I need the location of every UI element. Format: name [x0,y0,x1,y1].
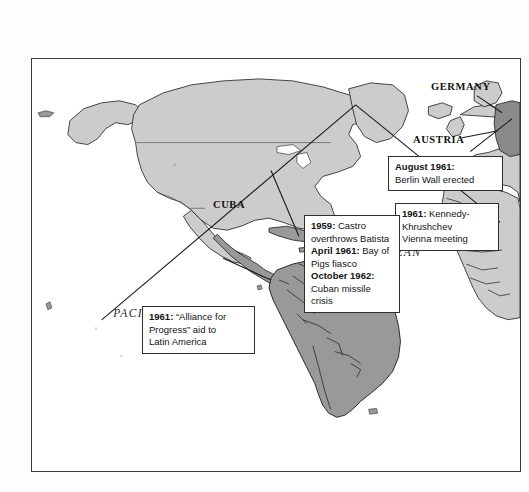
callout-cuba-date-2: April 1961: [311,245,360,256]
aleutian-chain [38,111,54,117]
map-frame: CUBA GERMANY AUSTRIA ATLANTIC OCEAN PACI… [31,58,521,472]
eastern-europe-shape [494,101,520,157]
callout-cuba-line-1-rest: Castro [335,220,366,231]
scan-speck [120,355,122,357]
canada-us-shape [132,79,375,230]
callout-cuba-line-5: October 1962: [311,270,394,283]
map-canvas [32,59,520,471]
scan-speck [95,327,97,330]
callout-cuba-events: 1959: Castro overthrows Batista April 19… [304,215,400,313]
callout-cuba-line-1: 1959: Castro [311,220,394,233]
callout-vienna-date: 1961: [402,208,426,219]
callout-alliance-for-progress: 1961: “Alliance for Progress” aid to Lat… [142,306,255,354]
callout-cuba-line-4: Pigs fiasco [311,258,394,271]
callout-alliance-date: 1961: [149,311,173,322]
callout-cuba-date-1: 1959: [311,220,335,231]
callout-vienna-line-1-rest: Kennedy- [426,208,469,219]
falkland-islands [369,408,378,414]
greenland-shape [349,83,409,143]
galapagos-islands [257,285,262,290]
map-landmass-svg [32,59,520,471]
callout-alliance-line-3: Latin America [149,336,249,349]
callout-vienna-meeting: 1961: Kennedy- Khrushchev Vienna meeting [395,203,499,251]
callout-berlin-line-2: Berlin Wall erected [395,174,497,187]
scan-speck [310,291,312,293]
british-isles-shape [446,117,464,137]
callout-cuba-line-3-rest: Bay of [360,245,390,256]
callout-alliance-line-1: 1961: “Alliance for [149,311,249,324]
callout-vienna-line-2: Khrushchev [402,221,493,234]
europe-africa [442,81,520,320]
callout-cuba-date-3: October 1962: [311,270,374,281]
callout-vienna-line-1: 1961: Kennedy- [402,208,493,221]
callout-berlin-line-1: August 1961: [395,161,497,174]
hawaii-islands [46,302,52,310]
callout-vienna-line-3: Vienna meeting [402,233,493,246]
callout-cuba-line-2: overthrows Batista [311,233,394,246]
scan-speck [173,163,176,166]
callout-alliance-line-2: Progress” aid to [149,324,249,337]
iceland-shape [428,103,452,119]
callout-cuba-line-3: April 1961: Bay of [311,245,394,258]
callout-alliance-line-1-rest: “Alliance for [173,311,226,322]
callout-berlin-wall: August 1961: Berlin Wall erected [388,156,503,191]
scandinavia-shape [474,81,502,107]
callout-berlin-date: August 1961: [395,161,455,172]
callout-cuba-line-6: Cuban missile crisis [311,283,394,308]
